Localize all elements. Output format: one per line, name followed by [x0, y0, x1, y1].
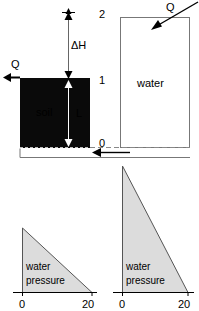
flow-label-left: Q	[11, 58, 20, 70]
figure-root: soil water L ΔH Q Q 2 1 0 water pressure…	[0, 0, 199, 311]
left-pressure-label-line1: water	[25, 261, 51, 272]
delta-h-arrowhead-top	[65, 12, 73, 20]
right-tick-label-0: 0	[119, 298, 125, 310]
elevation-label-2: 2	[99, 8, 105, 20]
right-pressure-label-line2: pressure	[126, 275, 165, 286]
water-label: water	[136, 77, 164, 89]
soil-length-label: L	[76, 107, 82, 119]
flow-arrow-left-head	[3, 73, 11, 82]
left-tick-label-20: 20	[82, 298, 94, 310]
left-tick-label-0: 0	[19, 298, 25, 310]
right-pressure-triangle	[123, 166, 189, 293]
elevation-label-0: 0	[99, 137, 105, 149]
flow-arrow-bottom-head	[92, 148, 101, 157]
delta-h-arrowhead-bottom	[65, 71, 73, 79]
elevation-label-1: 1	[99, 74, 105, 86]
right-tick-label-20: 20	[178, 298, 190, 310]
soil-label: soil	[36, 106, 53, 118]
left-pressure-label-line2: pressure	[26, 275, 65, 286]
diagram-canvas: soil water L ΔH Q Q 2 1 0 water pressure…	[0, 0, 199, 311]
right-pressure-label-line1: water	[125, 261, 151, 272]
delta-h-label: ΔH	[71, 39, 86, 51]
flow-label-top: Q	[166, 1, 175, 13]
